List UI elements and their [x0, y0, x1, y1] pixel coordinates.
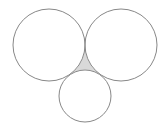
diagram-canvas: [0, 0, 165, 131]
circle-right: [85, 9, 157, 81]
tangent-circles-diagram: [0, 0, 165, 131]
circle-left: [13, 9, 85, 81]
circle-bottom: [59, 70, 111, 122]
